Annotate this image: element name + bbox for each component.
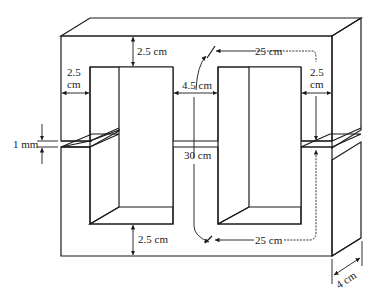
left-leg-width-label-2: cm: [67, 78, 81, 90]
magnetic-core-diagram: 2.5 cm 2.5 cm 4.5 cm 2.5 cm 25 cm 30 cm …: [0, 0, 376, 294]
left-window: [119, 67, 173, 207]
left-leg-width-label-1: 2.5: [67, 66, 81, 78]
top-yoke-thickness-label: 2.5 cm: [137, 45, 167, 57]
depth-label: 4 cm: [334, 269, 359, 291]
core-top-face: [61, 18, 361, 36]
right-window-bottom-face: [218, 207, 301, 224]
right-window: [249, 67, 301, 207]
bottom-path-length-label: 25 cm: [255, 234, 283, 246]
core-right-side-lower: [332, 142, 361, 256]
right-leg-width-label-2: cm: [310, 78, 324, 90]
core-right-side-upper: [332, 18, 361, 148]
top-path-length-label: 25 cm: [255, 45, 283, 57]
left-window-bottom-face: [90, 207, 173, 224]
center-path-length-label: 30 cm: [184, 149, 212, 161]
bottom-yoke-thickness-label: 2.5 cm: [138, 233, 168, 245]
right-window-inner-face: [218, 67, 249, 224]
air-gap-label: 1 mm: [13, 138, 39, 150]
right-leg-width-label-1: 2.5: [310, 66, 324, 78]
